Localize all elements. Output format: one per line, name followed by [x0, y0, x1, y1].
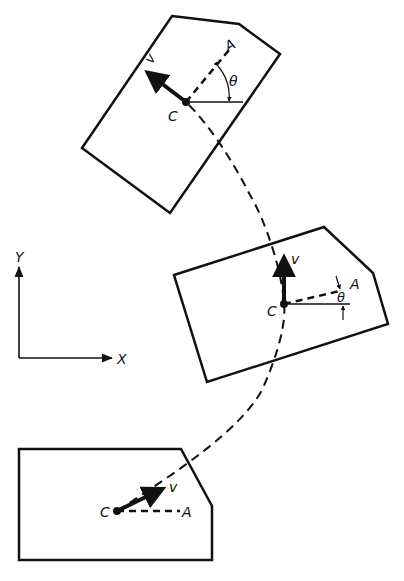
- reference-line-CA: [284, 291, 340, 304]
- center-label: C: [100, 504, 110, 520]
- angle-arc: [218, 66, 229, 101]
- rigid-body-motion-diagram: C A v θ C A v θ C A v Y X: [0, 0, 404, 581]
- x-axis-label: X: [116, 351, 127, 367]
- center-point: [280, 300, 288, 308]
- velocity-label: v: [291, 251, 300, 267]
- angle-tick-top: [336, 276, 340, 289]
- point-label: A: [181, 504, 192, 520]
- body-top: C A v θ: [82, 16, 280, 213]
- angle-label: θ: [229, 73, 238, 89]
- point-label: A: [221, 36, 238, 55]
- angle-label: θ: [337, 290, 345, 305]
- center-point: [182, 98, 190, 106]
- reference-line-CA: [186, 50, 229, 102]
- y-axis-label: Y: [15, 249, 25, 265]
- body-top-outline: [82, 16, 280, 213]
- center-label: C: [267, 303, 277, 319]
- velocity-label: v: [141, 50, 159, 66]
- point-label: A: [349, 276, 360, 292]
- velocity-label: v: [169, 479, 178, 495]
- coordinate-axes: Y X: [15, 249, 127, 367]
- velocity-arrow: [117, 489, 162, 511]
- center-point: [113, 507, 121, 515]
- velocity-arrow: [148, 73, 186, 102]
- body-middle: C A v θ: [174, 227, 388, 382]
- center-label: C: [168, 108, 178, 124]
